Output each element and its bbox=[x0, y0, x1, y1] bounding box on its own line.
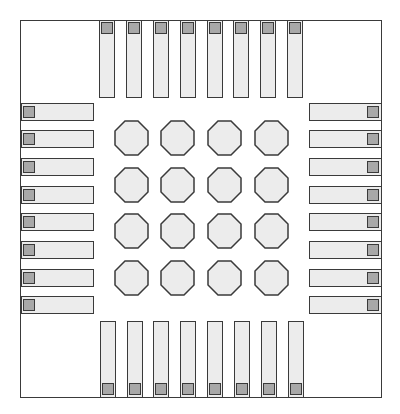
pad-contact-marker bbox=[209, 383, 221, 395]
pad-contact-marker bbox=[23, 133, 35, 145]
pad-contact-marker bbox=[23, 106, 35, 118]
pad-contact-marker bbox=[23, 299, 35, 311]
octagon-pad bbox=[160, 213, 195, 249]
pad-contact-marker bbox=[263, 383, 275, 395]
octagon-pad bbox=[160, 167, 195, 203]
octagon-pad bbox=[207, 120, 242, 156]
pad-contact-marker bbox=[182, 383, 194, 395]
pad-contact-marker bbox=[367, 106, 379, 118]
pad-contact-marker bbox=[262, 22, 274, 34]
pad-contact-marker bbox=[128, 22, 140, 34]
octagon-pad bbox=[114, 167, 149, 203]
pad-contact-marker bbox=[129, 383, 141, 395]
octagon-pad bbox=[254, 120, 289, 156]
octagon-pad bbox=[160, 260, 195, 296]
octagon-pad bbox=[254, 213, 289, 249]
octagon-pad bbox=[114, 213, 149, 249]
pad-contact-marker bbox=[102, 383, 114, 395]
pad-contact-marker bbox=[155, 383, 167, 395]
octagon-pad bbox=[114, 120, 149, 156]
octagon-pad bbox=[254, 260, 289, 296]
pad-contact-marker bbox=[182, 22, 194, 34]
pad-contact-marker bbox=[290, 383, 302, 395]
pad-contact-marker bbox=[367, 189, 379, 201]
pad-contact-marker bbox=[23, 216, 35, 228]
octagon-pad bbox=[207, 213, 242, 249]
pad-contact-marker bbox=[155, 22, 167, 34]
octagon-pad bbox=[114, 260, 149, 296]
pad-contact-marker bbox=[235, 22, 247, 34]
octagon-pad bbox=[207, 260, 242, 296]
pad-contact-marker bbox=[367, 133, 379, 145]
pad-contact-marker bbox=[23, 272, 35, 284]
pad-contact-marker bbox=[367, 161, 379, 173]
pad-contact-marker bbox=[367, 299, 379, 311]
pad-contact-marker bbox=[367, 216, 379, 228]
pad-contact-marker bbox=[367, 272, 379, 284]
pad-contact-marker bbox=[23, 189, 35, 201]
octagon-pad bbox=[160, 120, 195, 156]
octagon-pad bbox=[254, 167, 289, 203]
pad-contact-marker bbox=[367, 244, 379, 256]
octagon-pad bbox=[207, 167, 242, 203]
pad-contact-marker bbox=[209, 22, 221, 34]
pad-contact-marker bbox=[236, 383, 248, 395]
pad-contact-marker bbox=[289, 22, 301, 34]
package-outline bbox=[20, 20, 382, 398]
pad-contact-marker bbox=[23, 161, 35, 173]
pad-contact-marker bbox=[101, 22, 113, 34]
pad-contact-marker bbox=[23, 244, 35, 256]
